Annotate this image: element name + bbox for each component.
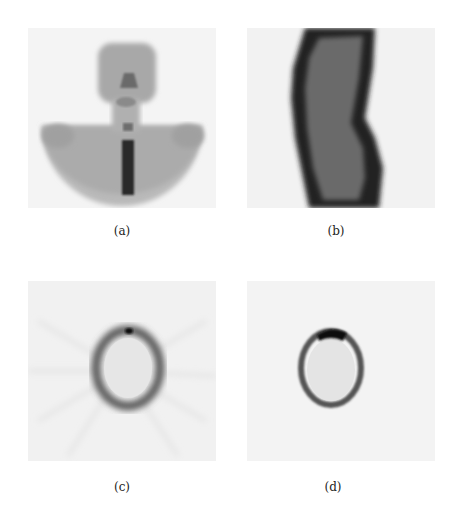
panel-b-image <box>247 28 435 208</box>
scan-d-graphic <box>247 281 435 461</box>
caption-c: (c) <box>92 480 152 494</box>
scan-a-graphic <box>28 28 216 208</box>
scan-c-graphic <box>28 281 216 461</box>
panel-c-image <box>28 281 216 461</box>
scan-b-graphic <box>247 28 435 208</box>
panel-a-image <box>28 28 216 208</box>
caption-b: (b) <box>306 224 366 238</box>
caption-d: (d) <box>303 480 363 494</box>
panel-d-image <box>247 281 435 461</box>
caption-a: (a) <box>92 224 152 238</box>
